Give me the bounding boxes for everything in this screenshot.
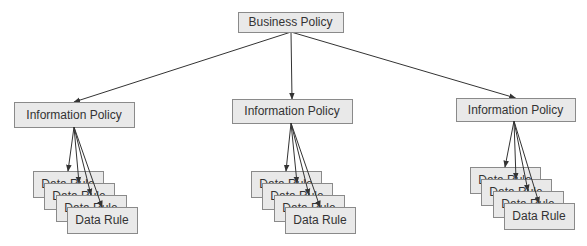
edge-root-to-info-3 — [291, 32, 516, 98]
data-rule-node-2-4-label: Data Rule — [293, 213, 347, 227]
data-rule-node-1-4: Data Rule — [68, 208, 138, 234]
information-policy-node-3: Information Policy — [457, 99, 576, 122]
data-rule-stack-2: Data RuleData RuleData RuleData Rule — [252, 172, 356, 234]
edge-root-to-info-1 — [74, 32, 291, 102]
edge-info-3-to-rule-1 — [505, 121, 514, 167]
edge-info-1-to-rule-1 — [68, 127, 74, 171]
edge-root-to-info-2 — [291, 32, 292, 99]
data-rule-stack-3: Data RuleData RuleData RuleData Rule — [471, 168, 575, 230]
edge-info-2-to-rule-1 — [286, 123, 291, 171]
nodes: Information PolicyData RuleData RuleData… — [15, 13, 576, 234]
policy-hierarchy-diagram: Information PolicyData RuleData RuleData… — [0, 0, 587, 246]
business-policy-node-label: Business Policy — [248, 15, 332, 29]
information-policy-node-3-label: Information Policy — [468, 103, 563, 117]
information-policy-node-2-label: Information Policy — [244, 104, 339, 118]
data-rule-node-2-4: Data Rule — [286, 208, 356, 234]
information-policy-node-1-label: Information Policy — [26, 108, 121, 122]
data-rule-node-3-4-label: Data Rule — [512, 209, 566, 223]
information-policy-node-1: Information Policy — [15, 103, 135, 128]
information-policy-node-2: Information Policy — [233, 100, 353, 124]
data-rule-stack-1: Data RuleData RuleData RuleData Rule — [34, 172, 138, 234]
data-rule-node-1-4-label: Data Rule — [75, 213, 129, 227]
data-rule-node-3-4: Data Rule — [505, 204, 575, 230]
edges — [74, 32, 516, 102]
business-policy-node: Business Policy — [239, 13, 344, 33]
